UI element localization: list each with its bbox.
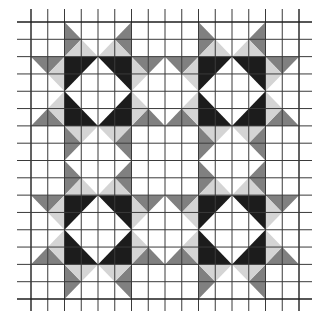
graph-paper-grid bbox=[17, 9, 312, 311]
quilt-pattern-drawing bbox=[0, 0, 330, 334]
